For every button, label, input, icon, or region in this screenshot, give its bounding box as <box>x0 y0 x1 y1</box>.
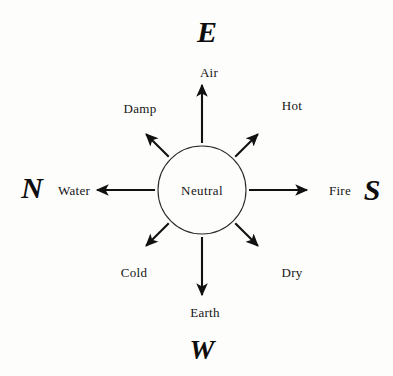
spoke-label-damp: Damp <box>124 102 157 115</box>
spoke-label-air: Air <box>200 66 218 79</box>
cardinal-letter-west: W <box>190 336 215 364</box>
cardinal-letter-south: S <box>364 175 381 205</box>
spoke-arrow-cold <box>146 223 169 246</box>
elemental-compass-diagram: Neutral Air Hot Fire Dry Earth Cold Wate… <box>0 0 393 376</box>
cardinal-letter-east: E <box>197 17 217 47</box>
spoke-arrow-dry <box>235 223 258 246</box>
cardinal-letter-north: N <box>21 173 43 203</box>
spoke-label-cold: Cold <box>121 266 147 279</box>
spoke-label-earth: Earth <box>190 306 220 319</box>
spoke-label-water: Water <box>58 184 90 197</box>
spoke-arrow-hot <box>235 134 258 157</box>
spoke-label-fire: Fire <box>329 184 351 197</box>
spoke-arrow-damp <box>146 134 169 157</box>
center-label: Neutral <box>181 184 223 197</box>
spoke-label-hot: Hot <box>282 99 302 112</box>
spoke-label-dry: Dry <box>281 266 302 279</box>
